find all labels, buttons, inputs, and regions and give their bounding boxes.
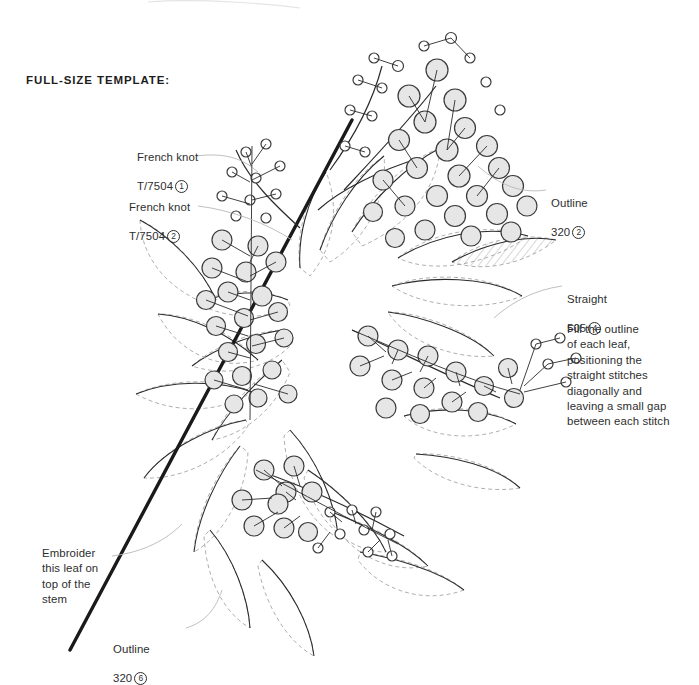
callout-stitch-label: Outline	[113, 642, 150, 656]
callout-stitch-label: Outline	[551, 196, 588, 210]
callout-outline-320-2: Outline 3202	[551, 182, 588, 253]
strand-count-badge: 2	[572, 226, 585, 239]
callout-outline-320-6: Outline 3206	[113, 628, 150, 685]
callout-french-knot-2: French knot T/75042	[129, 186, 190, 257]
callout-stitch-label: French knot	[137, 150, 198, 164]
callout-thread-code: T/7504	[129, 230, 165, 242]
callout-stitch-label: Straight	[567, 292, 607, 306]
template-page: FULL-SIZE TEMPLATE: French knot T/75041 …	[0, 0, 699, 685]
callout-thread-line: T/75042	[129, 229, 190, 243]
strand-count-badge: 6	[134, 672, 147, 685]
callout-stitch-label: French knot	[129, 200, 190, 214]
note-stem-instruction: Embroider this leaf on top of the stem	[42, 546, 132, 608]
callout-thread-code: 320	[113, 672, 132, 684]
callout-thread-code: 320	[551, 226, 570, 238]
note-fill-instruction: Fill the outline of each leaf, positioni…	[567, 322, 699, 430]
page-title: FULL-SIZE TEMPLATE:	[26, 74, 170, 86]
callout-thread-line: 3206	[113, 671, 150, 685]
strand-count-badge: 2	[167, 230, 180, 243]
callout-thread-line: 3202	[551, 225, 588, 239]
